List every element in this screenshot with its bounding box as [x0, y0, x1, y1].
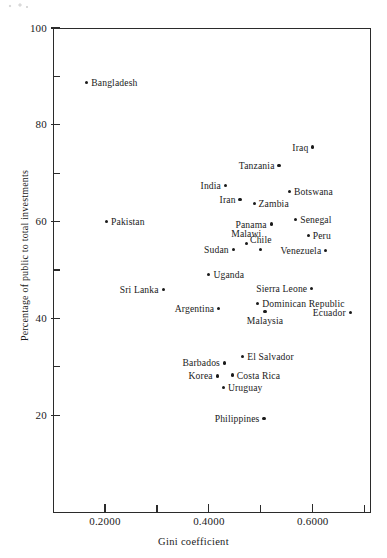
data-point [256, 302, 259, 305]
data-point-label: Uruguay [228, 383, 263, 393]
data-point-label: El Salvador [247, 352, 294, 362]
x-tick-minor [156, 505, 157, 512]
data-point-label: Zambia [259, 199, 289, 209]
data-point-label: Botswana [294, 187, 333, 197]
data-point-label: India [201, 181, 221, 191]
y-tick-major [51, 415, 60, 416]
y-tick-minor [53, 366, 60, 367]
data-point-label: Malaysia [247, 316, 283, 326]
x-tick-minor [260, 505, 261, 512]
plot-frame-top [53, 28, 371, 29]
data-point [223, 361, 226, 364]
x-tick-major [312, 504, 313, 512]
data-point [262, 417, 265, 420]
x-tick-major [104, 504, 105, 512]
data-point-label: Korea [189, 371, 213, 381]
data-point-label: Bangladesh [91, 78, 137, 88]
data-point [270, 222, 273, 225]
x-tick-label: 0.2000 [75, 516, 135, 527]
y-tick-label: 100 [0, 23, 47, 34]
data-point-label: Sri Lanka [120, 285, 159, 295]
data-point-label: Tanzania [239, 161, 275, 171]
plot-frame-right [370, 28, 371, 513]
data-point [232, 248, 235, 251]
x-tick-major [208, 504, 209, 512]
y-tick-minor [53, 269, 60, 270]
data-point [85, 81, 88, 84]
y-axis-title: Percentage of public to total investment… [19, 146, 30, 366]
data-point [349, 311, 352, 314]
y-tick-label: 80 [0, 119, 47, 130]
data-point [277, 164, 280, 167]
data-point [259, 248, 262, 251]
data-point-label: Venezuela [281, 246, 322, 256]
data-point-label: Costa Rica [237, 371, 280, 381]
data-point-label: Sierra Leone [256, 284, 307, 294]
x-tick-minor [364, 505, 365, 512]
data-point-label: Uganda [213, 270, 244, 280]
data-point-label: Iran [220, 195, 236, 205]
data-point [307, 234, 310, 237]
data-point [224, 184, 227, 187]
y-tick-major [51, 27, 60, 28]
data-point [217, 307, 220, 310]
data-point [216, 374, 219, 377]
scan-artifact [6, 2, 32, 11]
data-point [238, 198, 241, 201]
data-point [245, 242, 248, 245]
x-axis-line [53, 512, 371, 513]
data-point [241, 355, 244, 358]
data-point [311, 145, 314, 148]
data-point [294, 218, 297, 221]
data-point-label: Senegal [300, 215, 331, 225]
y-tick-major [51, 124, 60, 125]
y-tick-label: 20 [0, 410, 47, 421]
x-axis-title: Gini coefficient [0, 536, 387, 547]
y-tick-major [51, 221, 60, 222]
y-tick-major [51, 318, 60, 319]
x-tick-label: 0.6000 [283, 516, 343, 527]
data-point-label: Philippines [215, 414, 260, 424]
data-point [207, 273, 210, 276]
data-point [222, 386, 225, 389]
data-point-label: Chile [250, 235, 272, 245]
scatter-plot-figure: 10080604020 0.20000.40000.6000 Banglades… [0, 0, 387, 558]
data-point-label: Peru [313, 231, 331, 241]
data-point-label: Pakistan [111, 217, 145, 227]
data-point [253, 202, 256, 205]
data-point [231, 373, 234, 376]
data-point [310, 287, 313, 290]
data-point-label: Ecuador [313, 308, 346, 318]
data-point [105, 220, 108, 223]
data-point-label: Iraq [292, 143, 308, 153]
data-point-label: Argentina [175, 304, 215, 314]
data-point [162, 288, 165, 291]
y-tick-minor [53, 76, 60, 77]
data-point [288, 190, 291, 193]
data-point [263, 310, 266, 313]
data-point [324, 249, 327, 252]
data-point-label: Barbados [183, 358, 220, 368]
x-tick-label: 0.4000 [179, 516, 239, 527]
y-tick-minor [53, 173, 60, 174]
data-point-label: Sudan [204, 245, 229, 255]
